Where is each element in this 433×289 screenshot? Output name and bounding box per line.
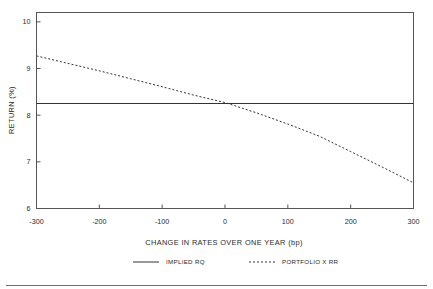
x-tick-label: -100: [155, 217, 169, 226]
x-axis-title: CHANGE IN RATES OVER ONE YEAR (bp): [145, 238, 302, 247]
y-tick-label: 6: [27, 204, 31, 213]
y-tick-label: 10: [23, 17, 31, 26]
y-axis-title: RETURN (%): [7, 86, 16, 134]
return-vs-rate-change-line-chart: 678910 -300-200-1000100200300 RETURN (%)…: [0, 0, 433, 289]
legend-label-0: IMPLIED RQ: [166, 258, 205, 265]
legend-label-1: PORTFOLIO X RR: [282, 258, 339, 265]
x-tick-label: 100: [282, 217, 294, 226]
x-tick-label: 200: [345, 217, 357, 226]
y-tick-label: 9: [27, 64, 31, 73]
chart-figure: 678910 -300-200-1000100200300 RETURN (%)…: [0, 0, 433, 289]
y-tick-label: 8: [27, 111, 31, 120]
y-tick-label: 7: [27, 157, 31, 166]
x-tick-label: 0: [223, 217, 227, 226]
x-tick-label: 300: [408, 217, 420, 226]
x-tick-label: -300: [29, 217, 43, 226]
x-tick-label: -200: [92, 217, 106, 226]
